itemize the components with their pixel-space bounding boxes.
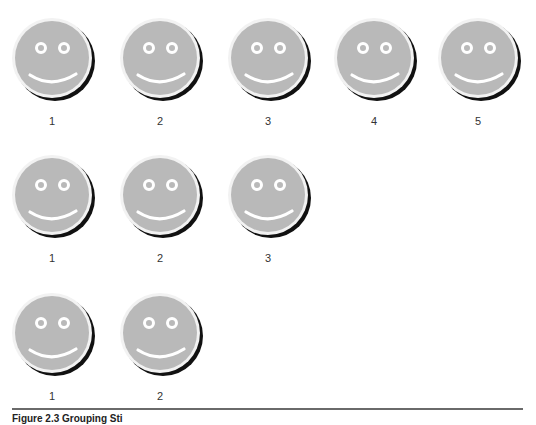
smiley-face-icon <box>10 291 96 377</box>
item-number-label: 4 <box>354 115 394 127</box>
smiley-face-icon <box>118 153 204 239</box>
caption-divider <box>12 408 523 410</box>
smiley-face-icon <box>226 153 312 239</box>
item-number-label: 1 <box>32 252 72 264</box>
item-number-label: 3 <box>248 115 288 127</box>
item-number-label: 1 <box>32 115 72 127</box>
item-number-label: 5 <box>458 115 498 127</box>
figure-caption: Figure 2.3 Grouping Sti <box>12 413 123 425</box>
smiley-face-icon <box>10 16 96 102</box>
smiley-face-icon <box>226 16 312 102</box>
item-number-label: 1 <box>32 390 72 402</box>
smiley-face-icon <box>118 16 204 102</box>
smiley-face-icon <box>10 153 96 239</box>
smiley-face-icon <box>118 291 204 377</box>
item-number-label: 3 <box>248 252 288 264</box>
item-number-label: 2 <box>140 390 180 402</box>
item-number-label: 2 <box>140 252 180 264</box>
smiley-face-icon <box>436 16 522 102</box>
item-number-label: 2 <box>140 115 180 127</box>
smiley-face-icon <box>332 16 418 102</box>
